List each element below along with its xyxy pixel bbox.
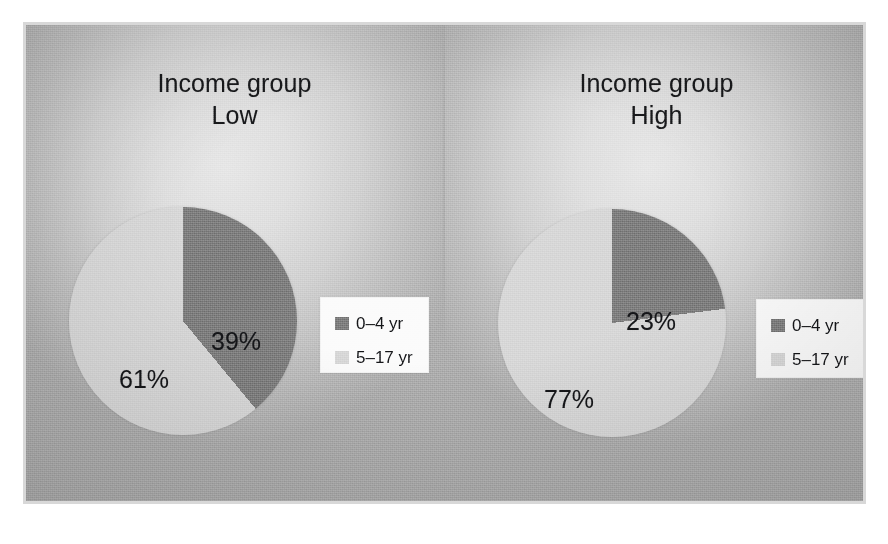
legend-high: 0–4 yr 5–17 yr bbox=[756, 299, 865, 378]
legend-label-5-17-yr: 5–17 yr bbox=[792, 351, 849, 368]
legend-swatch-0-4-yr bbox=[771, 319, 785, 332]
pie-chart-high bbox=[498, 209, 726, 437]
slice-label-high-0-4-yr: 23% bbox=[626, 307, 676, 336]
legend-item-5-17-yr[interactable]: 5–17 yr bbox=[335, 345, 416, 370]
legend-label-0-4-yr: 0–4 yr bbox=[356, 315, 403, 332]
legend-swatch-5-17-yr bbox=[771, 353, 785, 366]
slice-label-high-5-17-yr: 77% bbox=[544, 385, 594, 414]
legend-low: 0–4 yr 5–17 yr bbox=[320, 297, 429, 373]
panel-title-high: Income group High bbox=[444, 67, 866, 131]
legend-item-5-17-yr[interactable]: 5–17 yr bbox=[771, 347, 852, 372]
legend-label-0-4-yr: 0–4 yr bbox=[792, 317, 839, 334]
figure-frame: Income group Low 39% 61% 0–4 yr 5–17 yr … bbox=[23, 22, 866, 504]
panel-income-group-low: Income group Low 39% 61% 0–4 yr 5–17 yr bbox=[26, 25, 443, 501]
panel-income-group-high: Income group High 23% 77% 0–4 yr 5–17 yr bbox=[444, 25, 866, 501]
slice-label-low-5-17-yr: 61% bbox=[119, 365, 169, 394]
legend-item-0-4-yr[interactable]: 0–4 yr bbox=[771, 313, 852, 338]
legend-item-0-4-yr[interactable]: 0–4 yr bbox=[335, 311, 416, 336]
pie-chart-low bbox=[69, 207, 297, 435]
legend-swatch-5-17-yr bbox=[335, 351, 349, 364]
legend-label-5-17-yr: 5–17 yr bbox=[356, 349, 413, 366]
panel-title-low: Income group Low bbox=[26, 67, 443, 131]
legend-swatch-0-4-yr bbox=[335, 317, 349, 330]
slice-label-low-0-4-yr: 39% bbox=[211, 327, 261, 356]
